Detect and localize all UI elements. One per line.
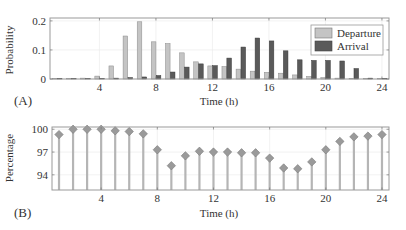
stem-marker-h22 bbox=[350, 133, 358, 141]
bar-departure-h16 bbox=[264, 72, 269, 79]
stem-marker-h20 bbox=[322, 146, 330, 154]
bar-arrival-h11 bbox=[199, 64, 204, 79]
panel-a-legend: Departure Arrival bbox=[311, 25, 383, 55]
bar-arrival-h21 bbox=[340, 61, 345, 79]
stem-marker-h12 bbox=[209, 148, 217, 156]
x-tick-label: 20 bbox=[320, 192, 332, 204]
bar-arrival-h15 bbox=[255, 38, 260, 79]
bar-departure-h10 bbox=[180, 53, 185, 79]
bar-arrival-h19 bbox=[312, 60, 317, 79]
bar-arrival-h17 bbox=[283, 51, 288, 79]
panel-b-ticks: 48121620249497100 bbox=[32, 123, 390, 204]
y-tick-label: 100 bbox=[32, 123, 49, 135]
panel-b-percentage-chart: 48121620249497100 Percentage Time (h) (B… bbox=[3, 123, 389, 220]
y-tick-label: 0.2 bbox=[32, 15, 46, 27]
bar-arrival-h16 bbox=[269, 41, 274, 79]
stem-marker-h18 bbox=[294, 165, 302, 173]
bar-arrival-h20 bbox=[326, 60, 331, 79]
x-tick-label: 24 bbox=[376, 81, 388, 93]
panel-b-stems bbox=[55, 125, 386, 190]
x-tick-label: 16 bbox=[264, 192, 276, 204]
bar-departure-h18 bbox=[293, 75, 298, 79]
legend-label-departure: Departure bbox=[337, 27, 381, 39]
stem-marker-h9 bbox=[167, 162, 175, 170]
stem-marker-h23 bbox=[364, 132, 372, 140]
y-tick-label: 97 bbox=[37, 146, 49, 158]
stem-marker-h15 bbox=[251, 149, 259, 157]
bar-arrival-h13 bbox=[227, 58, 232, 79]
y-tick-label: 0.1 bbox=[32, 44, 46, 56]
stem-marker-h17 bbox=[279, 164, 287, 172]
bar-arrival-h22 bbox=[354, 69, 359, 79]
panel-a-probability-chart: 481216202400.10.2 Probability Time (h) (… bbox=[3, 15, 389, 108]
bar-departure-h7 bbox=[137, 22, 142, 79]
panel-b-y-axis-label: Percentage bbox=[3, 134, 15, 182]
stem-marker-h16 bbox=[265, 154, 273, 162]
stem-marker-h6 bbox=[125, 127, 133, 135]
bar-departure-h9 bbox=[165, 44, 170, 79]
bar-arrival-h8 bbox=[156, 76, 161, 79]
panel-b-axes-frame bbox=[52, 127, 389, 190]
panel-a-label: (A) bbox=[14, 93, 32, 108]
stem-marker-h8 bbox=[153, 146, 161, 154]
y-tick-label: 0 bbox=[41, 73, 47, 85]
bar-departure-h15 bbox=[250, 71, 255, 79]
panel-b-x-axis-label: Time (h) bbox=[200, 207, 239, 220]
bar-arrival-h10 bbox=[184, 67, 189, 79]
stem-marker-h13 bbox=[223, 148, 231, 156]
legend-label-arrival: Arrival bbox=[337, 40, 369, 52]
stem-marker-h7 bbox=[139, 130, 147, 138]
x-tick-label: 24 bbox=[376, 192, 388, 204]
bar-departure-h13 bbox=[222, 67, 227, 79]
x-tick-label: 8 bbox=[153, 81, 159, 93]
bar-arrival-h9 bbox=[170, 72, 175, 79]
bar-departure-h11 bbox=[194, 62, 199, 79]
y-tick-label: 94 bbox=[37, 169, 49, 181]
x-tick-label: 20 bbox=[320, 81, 332, 93]
x-tick-label: 4 bbox=[98, 192, 104, 204]
stem-marker-h14 bbox=[237, 149, 245, 157]
bar-arrival-h14 bbox=[241, 47, 246, 79]
stem-marker-h3 bbox=[83, 125, 91, 133]
figure: 481216202400.10.2 Probability Time (h) (… bbox=[0, 0, 406, 230]
bar-departure-h6 bbox=[123, 36, 128, 79]
bar-arrival-h18 bbox=[297, 60, 302, 79]
legend-swatch-departure bbox=[315, 28, 332, 38]
stem-marker-h19 bbox=[308, 158, 316, 166]
x-tick-label: 4 bbox=[97, 81, 103, 93]
stem-marker-h21 bbox=[336, 137, 344, 145]
stem-marker-h5 bbox=[111, 127, 119, 135]
bar-departure-h17 bbox=[278, 73, 283, 79]
panel-b-label: (B) bbox=[14, 205, 31, 220]
x-tick-label: 16 bbox=[263, 81, 275, 93]
x-tick-label: 8 bbox=[155, 192, 161, 204]
panel-a-x-axis-label: Time (h) bbox=[200, 95, 239, 108]
bar-departure-h8 bbox=[151, 42, 156, 79]
stem-marker-h10 bbox=[181, 152, 189, 160]
bar-departure-h12 bbox=[208, 66, 213, 79]
legend-swatch-arrival bbox=[315, 41, 332, 51]
bar-departure-h5 bbox=[109, 66, 114, 79]
panel-a-y-axis-label: Probability bbox=[3, 25, 15, 74]
stem-marker-h11 bbox=[195, 147, 203, 155]
stem-marker-h1 bbox=[55, 130, 63, 138]
stem-marker-h24 bbox=[378, 130, 386, 138]
x-tick-label: 12 bbox=[208, 192, 219, 204]
panel-b-grid bbox=[52, 127, 389, 190]
x-tick-label: 12 bbox=[207, 81, 218, 93]
bar-departure-h14 bbox=[236, 69, 241, 79]
stem-marker-h2 bbox=[69, 125, 77, 133]
bar-arrival-h12 bbox=[213, 66, 218, 79]
